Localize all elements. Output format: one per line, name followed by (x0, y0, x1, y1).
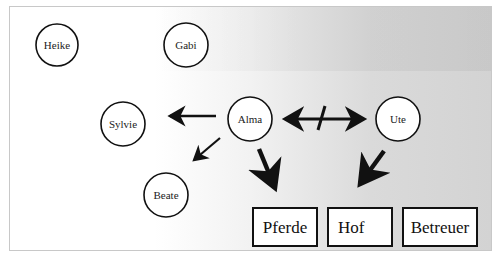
node-ute-label: Ute (390, 113, 406, 125)
node-heike-label: Heike (44, 39, 70, 51)
edge-ute-hof (360, 151, 384, 184)
edge-alma-ute (285, 106, 364, 130)
box-hof: Hof (328, 208, 392, 246)
node-beate: Beate (144, 173, 188, 217)
node-alma: Alma (228, 97, 272, 141)
box-hof-label: Hof (338, 218, 365, 237)
box-betreuer: Betreuer (403, 208, 477, 246)
node-sylvie: Sylvie (101, 102, 145, 146)
node-heike: Heike (36, 24, 78, 66)
box-pferde-label: Pferde (263, 218, 307, 237)
box-betreuer-label: Betreuer (411, 218, 470, 237)
node-gabi-label: Gabi (175, 39, 196, 51)
node-ute: Ute (376, 97, 420, 141)
edge-alma-pferde (259, 149, 275, 188)
edge-alma-beate (194, 138, 220, 160)
box-pferde: Pferde (253, 208, 317, 246)
relationship-diagram: Heike Gabi Sylvie Alma Ute Beate Pferde … (0, 0, 503, 259)
node-beate-label: Beate (153, 189, 178, 201)
node-sylvie-label: Sylvie (109, 118, 137, 130)
node-alma-label: Alma (238, 113, 263, 125)
node-gabi: Gabi (164, 23, 208, 67)
